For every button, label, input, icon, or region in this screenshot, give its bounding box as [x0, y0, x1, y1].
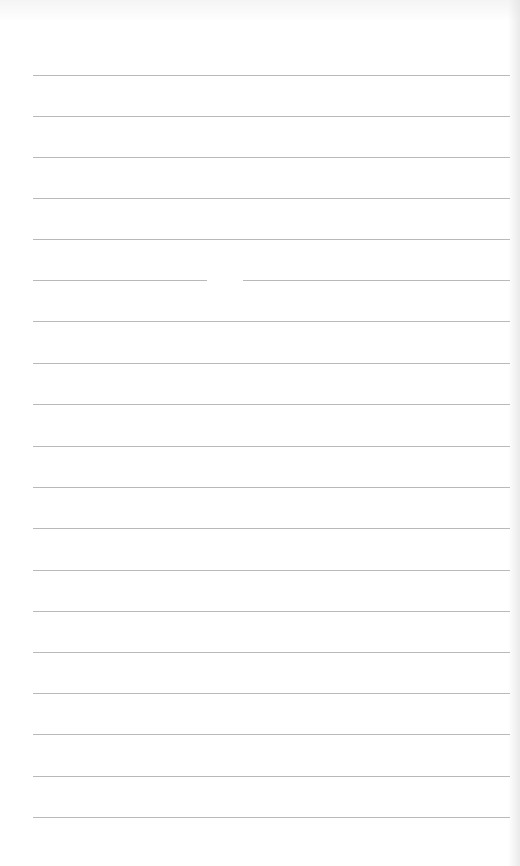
ruled-line: [33, 487, 510, 488]
ruled-line: [33, 280, 510, 281]
ruled-line: [33, 446, 510, 447]
ruled-line: [33, 734, 510, 735]
notepad-page: [0, 0, 520, 866]
ruled-line: [33, 693, 510, 694]
ruled-line: [33, 570, 510, 571]
ruled-line: [33, 157, 510, 158]
ruled-line: [33, 116, 510, 117]
ruled-line: [33, 75, 510, 76]
ruled-line: [33, 363, 510, 364]
ruled-line: [33, 611, 510, 612]
ruled-line: [33, 198, 510, 199]
ruled-line: [33, 321, 510, 322]
ruled-line: [33, 404, 510, 405]
ruled-line: [33, 776, 510, 777]
ruled-line: [33, 528, 510, 529]
ruled-line: [33, 652, 510, 653]
ruled-line: [33, 817, 510, 818]
bleed-through-ghost: [0, 0, 520, 22]
page-edge-shadow: [508, 0, 520, 866]
line-gap: [207, 279, 243, 282]
ruled-line: [33, 239, 510, 240]
